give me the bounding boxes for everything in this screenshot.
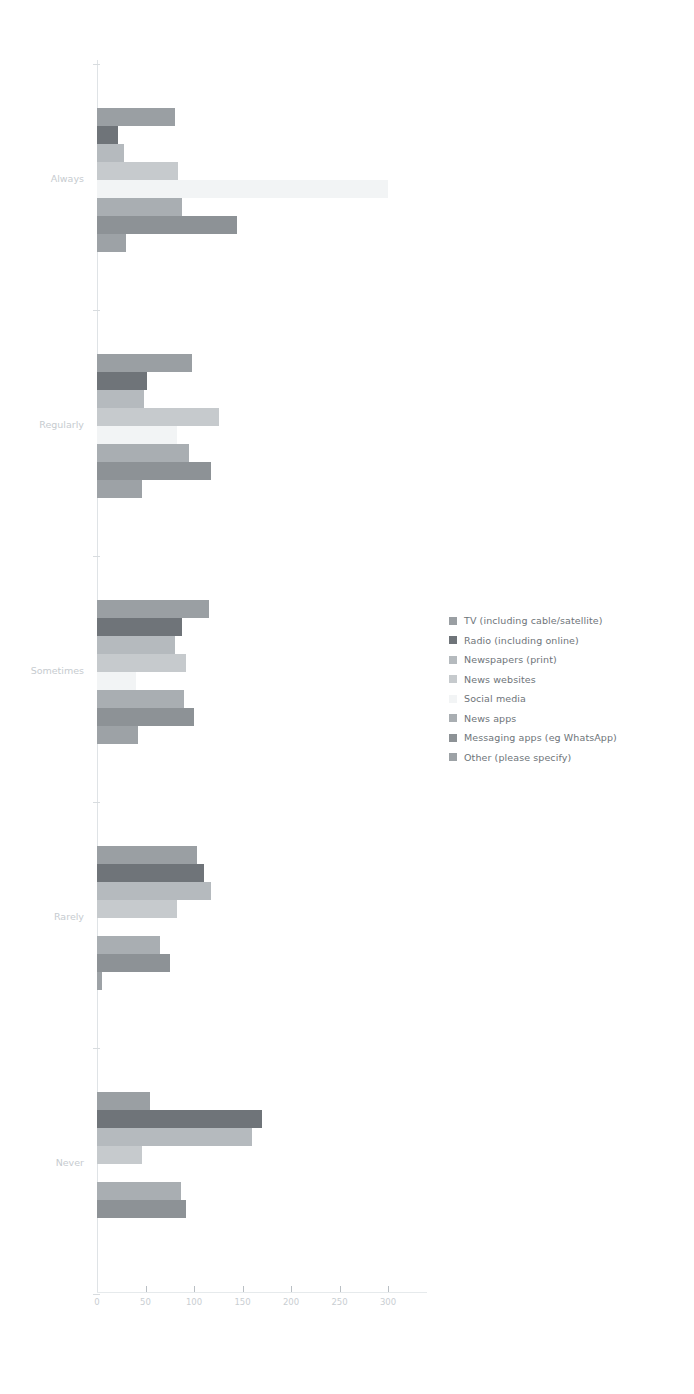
bar <box>97 216 237 234</box>
legend-swatch-icon <box>449 617 457 625</box>
legend-swatch-icon <box>449 636 457 644</box>
category-label: Always <box>0 173 84 184</box>
legend-item[interactable]: Radio (including online) <box>449 631 685 651</box>
bar <box>97 654 186 672</box>
x-axis-tick-label: 300 <box>380 1297 396 1307</box>
x-axis-tick-label: 150 <box>234 1297 250 1307</box>
category-label: Sometimes <box>0 665 84 676</box>
bar <box>97 900 177 918</box>
y-axis-tick <box>93 1294 100 1295</box>
bar <box>97 408 219 426</box>
legend-swatch-icon <box>449 675 457 683</box>
bar <box>97 1110 262 1128</box>
bar-group <box>97 108 427 252</box>
bar <box>97 618 182 636</box>
legend-swatch-icon <box>449 656 457 664</box>
legend-label: Social media <box>464 693 526 704</box>
legend-swatch-icon <box>449 695 457 703</box>
bar-group <box>97 1092 427 1236</box>
y-axis-tick <box>93 1048 100 1049</box>
bar <box>97 1092 150 1110</box>
bar <box>97 636 175 654</box>
legend-label: Radio (including online) <box>464 635 579 646</box>
bar-group <box>97 846 427 990</box>
bar <box>97 1182 181 1200</box>
legend-swatch-icon <box>449 753 457 761</box>
y-axis-tick <box>93 310 100 311</box>
bar <box>97 936 160 954</box>
bar <box>97 426 177 444</box>
x-axis-tick-label: 50 <box>140 1297 151 1307</box>
bar <box>97 108 175 126</box>
legend-item[interactable]: Other (please specify) <box>449 748 685 768</box>
category-label: Regularly <box>0 419 84 430</box>
bar <box>97 234 126 252</box>
x-axis-tick-label: 200 <box>283 1297 299 1307</box>
x-axis-tick <box>291 1286 292 1292</box>
bar <box>97 864 204 882</box>
legend-label: Other (please specify) <box>464 752 571 763</box>
bar <box>97 846 197 864</box>
x-axis-tick <box>340 1286 341 1292</box>
bar <box>97 462 211 480</box>
legend-item[interactable]: Social media <box>449 689 685 709</box>
category-label: Rarely <box>0 911 84 922</box>
bar <box>97 1128 252 1146</box>
y-axis-tick <box>93 64 100 65</box>
bar <box>97 882 211 900</box>
legend-label: TV (including cable/satellite) <box>464 615 603 626</box>
bar <box>97 180 388 198</box>
bar <box>97 1200 186 1218</box>
bar <box>97 390 144 408</box>
bar <box>97 480 142 498</box>
legend-label: Newspapers (print) <box>464 654 557 665</box>
legend-label: News websites <box>464 674 536 685</box>
legend-swatch-icon <box>449 714 457 722</box>
bar <box>97 954 170 972</box>
bar <box>97 708 194 726</box>
legend-item[interactable]: TV (including cable/satellite) <box>449 611 685 631</box>
bar-group <box>97 354 427 498</box>
legend-item[interactable]: News websites <box>449 670 685 690</box>
x-axis-tick-label: 0 <box>94 1297 99 1307</box>
bar <box>97 372 147 390</box>
bar <box>97 972 102 990</box>
x-axis-tick <box>388 1286 389 1292</box>
y-axis-tick <box>93 802 100 803</box>
bar <box>97 144 124 162</box>
category-label: Never <box>0 1157 84 1168</box>
x-axis-tick-label: 100 <box>186 1297 202 1307</box>
legend-item[interactable]: News apps <box>449 709 685 729</box>
bar <box>97 354 192 372</box>
bar <box>97 126 118 144</box>
bar-group <box>97 600 427 744</box>
bar <box>97 1146 142 1164</box>
bar <box>97 726 138 744</box>
bar <box>97 162 178 180</box>
x-axis-tick <box>146 1286 147 1292</box>
category-axis-line <box>97 1292 427 1293</box>
chart-legend: TV (including cable/satellite)Radio (inc… <box>449 611 685 767</box>
bar <box>97 690 184 708</box>
plot-area <box>97 60 427 1290</box>
bar <box>97 198 182 216</box>
legend-swatch-icon <box>449 734 457 742</box>
y-axis-tick <box>93 556 100 557</box>
legend-label: Messaging apps (eg WhatsApp) <box>464 732 617 743</box>
x-axis-tick-label: 250 <box>331 1297 347 1307</box>
x-axis-tick <box>194 1286 195 1292</box>
bar <box>97 444 189 462</box>
bar-chart: AlwaysRegularlySometimesRarelyNever 0501… <box>0 0 694 1394</box>
legend-item[interactable]: Newspapers (print) <box>449 650 685 670</box>
legend-item[interactable]: Messaging apps (eg WhatsApp) <box>449 728 685 748</box>
x-axis-tick <box>243 1286 244 1292</box>
bar <box>97 672 136 690</box>
bar <box>97 600 209 618</box>
legend-label: News apps <box>464 713 516 724</box>
